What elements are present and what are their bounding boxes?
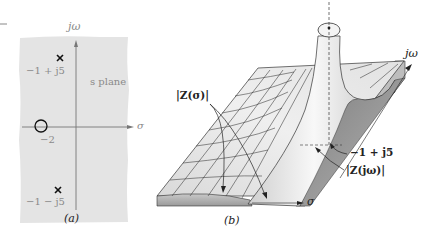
sigma-3d-axis-label: σ: [307, 195, 315, 208]
pole-lower-label: −1 − j5: [26, 196, 65, 207]
sigma-axis-arrow-icon: [127, 125, 134, 129]
zero-label: −2: [40, 134, 55, 145]
s-plane-figure: [0, 0, 436, 240]
jw-3d-axis-label: jω: [405, 46, 418, 60]
jw-axis-3d-arrow-icon: [405, 64, 412, 71]
jw-axis-label: jω: [68, 20, 80, 33]
panel-a: [0, 24, 134, 223]
z-sigma-label: |Z(σ)|: [176, 89, 209, 101]
sigma-axis-label: σ: [137, 120, 144, 131]
panel-b-caption: (b): [224, 214, 240, 227]
pole-3d-label: −1 + j5: [350, 146, 393, 158]
s-plane-label: s plane: [90, 76, 126, 87]
pole-upper-label: −1 + j5: [26, 65, 65, 76]
panel-a-caption: (a): [64, 212, 79, 225]
z-jw-label: |Z(jω)|: [346, 164, 385, 176]
